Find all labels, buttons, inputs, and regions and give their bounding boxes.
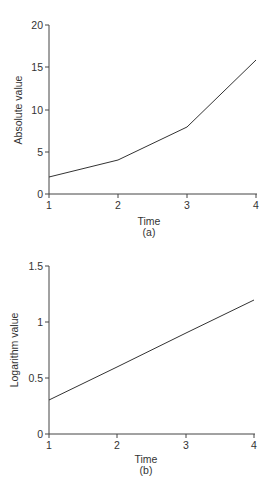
y-axis-label: Logarithm value: [8, 312, 20, 387]
panel-caption: (b): [140, 464, 153, 476]
y-tick-label: 0.5: [28, 372, 43, 384]
x-tick-label: 4: [251, 439, 257, 451]
y-tick-label: 0: [37, 428, 43, 440]
x-tick-label: 1: [46, 439, 52, 451]
x-tick-label: 3: [183, 439, 189, 451]
chart-b-plot: 1.5 1 0.5 0 1 2 3 4 Logarithm value Time…: [0, 0, 277, 492]
data-series-line: [49, 300, 254, 400]
chart-b: 1.5 1 0.5 0 1 2 3 4 Logarithm value Time…: [0, 0, 277, 492]
y-tick-label: 1.5: [28, 260, 43, 272]
y-tick-label: 1: [37, 316, 43, 328]
x-tick-label: 2: [114, 439, 120, 451]
